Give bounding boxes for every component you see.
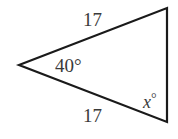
top-side-label: 17	[83, 9, 102, 30]
base-angle-label: x°	[142, 91, 157, 112]
base-angle-degree: °	[151, 91, 157, 106]
triangle-diagram: 17 40° 17 x°	[0, 0, 178, 139]
apex-angle-label: 40°	[55, 55, 82, 76]
bottom-side-label: 17	[83, 105, 102, 126]
base-angle-variable: x	[142, 92, 151, 112]
